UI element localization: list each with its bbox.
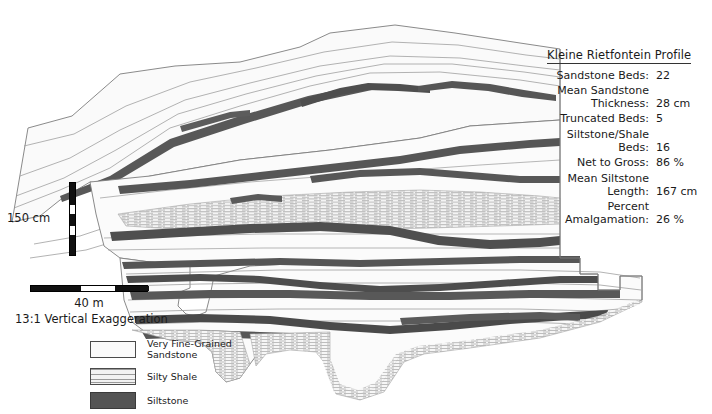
stat-label: Sandstone Beds: — [545, 68, 656, 84]
sandstone-swatch — [90, 341, 136, 358]
vertical-scale-track — [69, 182, 76, 256]
legend-label: Very Fine-Grained Sandstone — [147, 338, 232, 361]
stat-label: Net to Gross: — [545, 156, 656, 172]
legend-item-sandstone: Very Fine-Grained Sandstone — [90, 338, 232, 361]
scale-segment — [115, 286, 149, 291]
scale-segment — [70, 235, 75, 255]
stat-label: Mean Siltstone Length: — [545, 171, 656, 199]
stat-value: 86 % — [656, 156, 711, 172]
table-row: Percent Amalgamation: 26 % — [545, 200, 711, 228]
profile-title: Kleine Rietfontein Profile — [547, 48, 691, 64]
legend-item-siltstone: Siltstone — [90, 392, 232, 409]
vertical-scale-label: 150 cm — [7, 211, 50, 225]
scale-segment — [31, 286, 81, 291]
stat-value: 28 cm — [656, 84, 711, 112]
figure-canvas: Kleine Rietfontein Profile Sandstone Bed… — [0, 0, 712, 414]
legend-item-silty-shale: Silty Shale — [90, 368, 232, 385]
scale-segment — [70, 183, 75, 205]
legend-label: Siltstone — [147, 395, 188, 406]
legend-label: Silty Shale — [147, 371, 197, 382]
table-row: Truncated Beds: 5 — [545, 112, 711, 128]
table-row: Mean Sandstone Thickness: 28 cm — [545, 84, 711, 112]
stat-value: 16 — [656, 128, 711, 156]
table-row: Mean Siltstone Length: 167 cm — [545, 171, 711, 199]
stat-label: Mean Sandstone Thickness: — [545, 84, 656, 112]
statistics-table: Sandstone Beds: 22 Mean Sandstone Thickn… — [545, 68, 711, 228]
horizontal-scale-label: 40 m — [30, 296, 148, 310]
stat-value: 26 % — [656, 200, 711, 228]
stat-value: 5 — [656, 112, 711, 128]
stat-label: Truncated Beds: — [545, 112, 656, 128]
stat-label: Percent Amalgamation: — [545, 200, 656, 228]
scale-segment — [70, 214, 75, 226]
table-row: Sandstone Beds: 22 — [545, 68, 711, 84]
horizontal-scale-track — [30, 285, 148, 292]
lithology-legend: Very Fine-Grained Sandstone Silty Shale … — [90, 338, 232, 414]
table-row: Siltstone/Shale Beds: 16 — [545, 128, 711, 156]
vertical-exaggeration-label: 13:1 Vertical Exaggeration — [15, 312, 165, 326]
siltstone-swatch — [90, 392, 136, 409]
silty-shale-swatch — [90, 368, 136, 385]
profile-statistics-panel: Kleine Rietfontein Profile Sandstone Bed… — [545, 44, 712, 228]
stat-value: 22 — [656, 68, 711, 84]
table-row: Net to Gross: 86 % — [545, 156, 711, 172]
stat-label: Siltstone/Shale Beds: — [545, 128, 656, 156]
stat-value: 167 cm — [656, 171, 711, 199]
